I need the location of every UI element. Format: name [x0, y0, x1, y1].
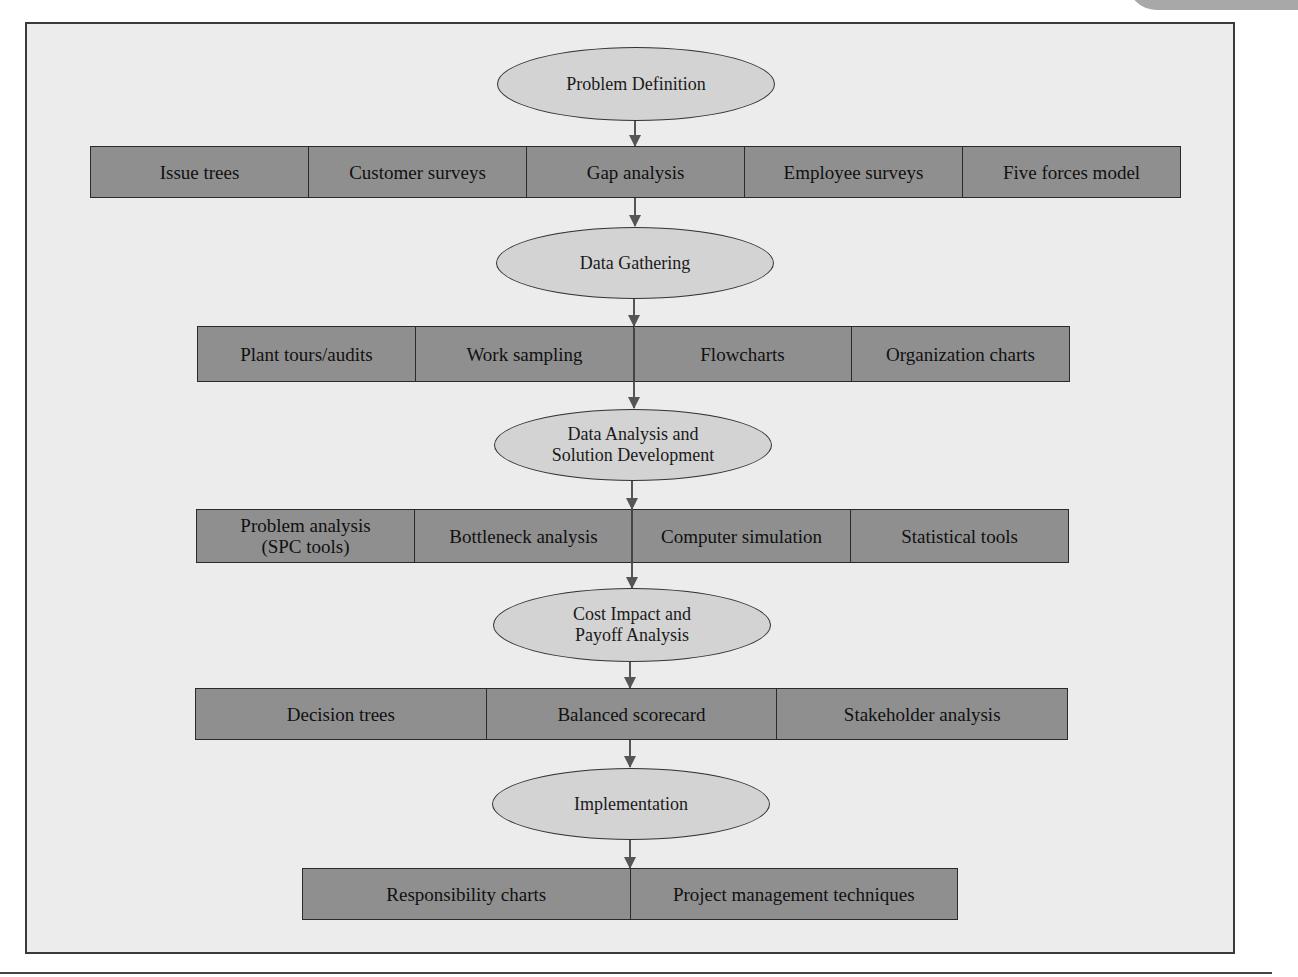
arrow-down-icon [634, 198, 636, 226]
tools-row-problem-definition: Issue trees Customer surveys Gap analysi… [90, 146, 1181, 198]
connector-line [631, 509, 633, 563]
stage-data-gathering: Data Gathering [496, 227, 774, 299]
tools-row-implementation: Responsibility charts Project management… [302, 868, 958, 920]
tool-stakeholder-analysis: Stakeholder analysis [777, 689, 1067, 739]
tool-employee-surveys: Employee surveys [745, 147, 963, 197]
stage-implementation: Implementation [492, 768, 770, 840]
stage-problem-definition: Problem Definition [497, 47, 775, 121]
arrow-down-icon [629, 840, 631, 868]
tool-balanced-scorecard: Balanced scorecard [487, 689, 778, 739]
tool-organization-charts: Organization charts [852, 327, 1069, 381]
arrow-down-icon [631, 481, 633, 509]
tool-bottleneck-analysis: Bottleneck analysis [415, 510, 633, 562]
arrow-down-icon [633, 382, 635, 408]
arrow-down-icon [629, 662, 631, 688]
page-bottom-rule [0, 972, 1272, 974]
tool-flowcharts: Flowcharts [634, 327, 852, 381]
tool-gap-analysis: Gap analysis [527, 147, 745, 197]
arrow-down-icon [633, 299, 635, 326]
arrow-down-icon [631, 563, 633, 588]
tool-problem-analysis-spc: Problem analysis (SPC tools) [197, 510, 415, 562]
arrow-down-icon [634, 121, 636, 146]
stage-label: Data Gathering [580, 253, 690, 274]
connector-line [633, 328, 635, 382]
stage-label: Data Analysis and Solution Development [552, 424, 714, 466]
page-corner-tab [1128, 0, 1298, 10]
stage-label: Problem Definition [566, 74, 705, 95]
tool-statistical-tools: Statistical tools [851, 510, 1068, 562]
tool-issue-trees: Issue trees [91, 147, 309, 197]
tool-work-sampling: Work sampling [416, 327, 634, 381]
tool-project-management-techniques: Project management techniques [631, 869, 958, 919]
arrow-down-icon [629, 740, 631, 767]
tool-decision-trees: Decision trees [196, 689, 487, 739]
tool-plant-tours-audits: Plant tours/audits [198, 327, 416, 381]
stage-label: Cost Impact and Payoff Analysis [573, 604, 691, 646]
stage-label: Implementation [574, 794, 688, 815]
stage-data-analysis-solution-development: Data Analysis and Solution Development [494, 409, 772, 481]
tool-responsibility-charts: Responsibility charts [303, 869, 631, 919]
stage-cost-impact-payoff-analysis: Cost Impact and Payoff Analysis [493, 588, 771, 662]
tool-customer-surveys: Customer surveys [309, 147, 527, 197]
tools-row-cost-impact: Decision trees Balanced scorecard Stakeh… [195, 688, 1068, 740]
tool-computer-simulation: Computer simulation [633, 510, 851, 562]
tool-five-forces-model: Five forces model [963, 147, 1180, 197]
